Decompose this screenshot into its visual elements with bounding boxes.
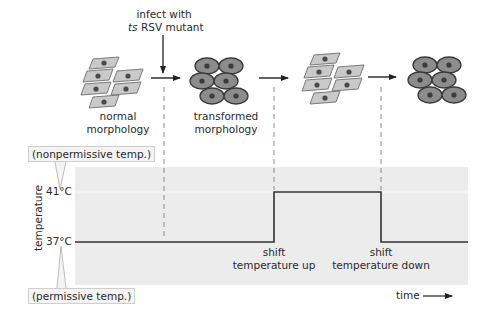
y-axis-label: temperature	[32, 176, 44, 260]
stage-label-line1: transformed	[182, 110, 270, 123]
event-label-up: shift temperature up	[230, 246, 318, 271]
stage-label-line2: morphology	[78, 123, 158, 136]
x-axis-label: time	[396, 289, 420, 301]
event-line1: shift	[230, 246, 318, 259]
callout-permissive: (permissive temp.)	[28, 288, 135, 304]
normal-cells-2	[302, 53, 364, 104]
normal-cells-1	[81, 57, 143, 108]
stage-label-normal: normal morphology	[78, 110, 158, 135]
transformed-cells-1	[190, 58, 248, 104]
event-line2: temperature down	[329, 259, 433, 272]
stage-label-line2: morphology	[182, 123, 270, 136]
tick-41: 41°C	[46, 185, 72, 197]
callout-nonpermissive: (nonpermissive temp.)	[28, 146, 155, 162]
tick-37: 37°C	[46, 235, 72, 247]
temperature-line	[75, 192, 468, 242]
infect-ts: ts	[128, 21, 138, 33]
callout-pointer-low	[57, 246, 66, 288]
infect-line1: infect with	[128, 8, 200, 21]
infect-rest: RSV mutant	[138, 21, 204, 33]
diagram-graphics	[0, 0, 493, 330]
infect-line2: ts RSV mutant	[128, 21, 200, 34]
transformed-cells-2	[408, 57, 466, 103]
event-line2: temperature up	[230, 259, 318, 272]
stage-label-transformed: transformed morphology	[182, 110, 270, 135]
event-line1: shift	[329, 246, 433, 259]
infect-annotation: infect with ts RSV mutant	[128, 8, 200, 33]
event-label-down: shift temperature down	[329, 246, 433, 271]
stage-label-line1: normal	[78, 110, 158, 123]
